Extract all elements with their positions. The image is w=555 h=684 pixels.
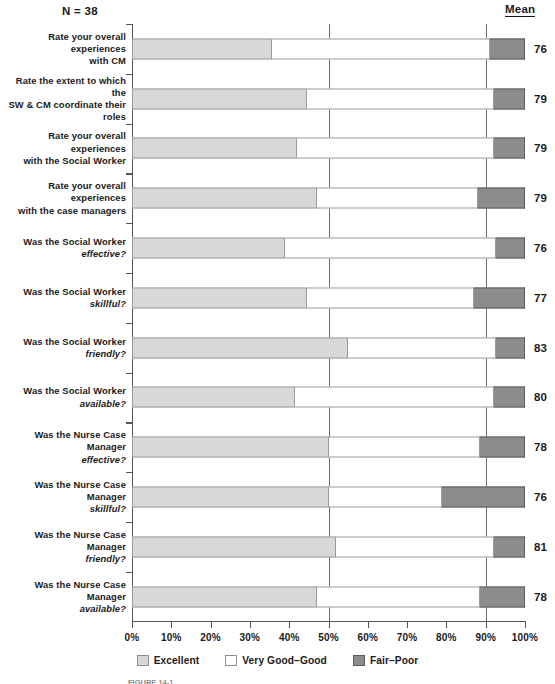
bar-segment-very-good-good bbox=[348, 337, 495, 358]
x-axis-tick-label: 70% bbox=[397, 632, 418, 643]
x-axis-tick bbox=[289, 622, 290, 628]
bar-segment-excellent bbox=[132, 88, 307, 109]
bar-segment-excellent bbox=[132, 586, 317, 607]
x-axis-tick-label: 100% bbox=[512, 632, 538, 643]
mean-value: 83 bbox=[534, 342, 547, 354]
bar-segment-very-good-good bbox=[272, 38, 490, 59]
row-label-line1: Was the Social Worker bbox=[0, 236, 126, 248]
mean-value: 76 bbox=[534, 242, 547, 254]
row-category-label: Was the Social Workerfriendly? bbox=[0, 335, 126, 359]
x-axis-tick bbox=[171, 622, 172, 628]
x-axis-tick-label: 20% bbox=[200, 632, 221, 643]
satisfaction-stacked-bar-chart: N = 38 Mean Rate your overall experience… bbox=[0, 0, 555, 684]
row-category-label: Was the Nurse Case Managerfriendly? bbox=[0, 529, 126, 566]
row-label-line2: available? bbox=[0, 603, 126, 615]
chart-row: Was the Social Workereffective?76 bbox=[0, 223, 555, 273]
mean-value: 78 bbox=[534, 591, 547, 603]
y-axis-tick bbox=[126, 323, 132, 324]
row-label-line2: skillful? bbox=[0, 503, 126, 515]
row-label-line2: effective? bbox=[0, 453, 126, 465]
stacked-bar bbox=[132, 387, 525, 408]
legend-label: Fair–Poor bbox=[370, 655, 418, 666]
very-good-good-swatch bbox=[225, 655, 237, 666]
y-axis-tick bbox=[126, 74, 132, 75]
x-axis-tick bbox=[211, 622, 212, 628]
x-axis-tick bbox=[486, 622, 487, 628]
mean-value: 77 bbox=[534, 292, 547, 304]
bar-segment-very-good-good bbox=[317, 188, 478, 209]
bar-segment-excellent bbox=[132, 138, 297, 159]
row-label-line1: Was the Social Worker bbox=[0, 335, 126, 347]
excellent-swatch bbox=[137, 655, 149, 666]
legend-item[interactable]: Excellent bbox=[137, 655, 200, 666]
row-label-line1: Rate your overall experiences bbox=[0, 31, 126, 55]
bar-segment-excellent bbox=[132, 337, 348, 358]
x-axis-tick-label: 80% bbox=[436, 632, 457, 643]
row-label-line1: Was the Nurse Case Manager bbox=[0, 578, 126, 602]
y-axis-tick bbox=[126, 273, 132, 274]
row-label-line1: Rate your overall experiences bbox=[0, 130, 126, 154]
bar-segment-fair-poor bbox=[494, 536, 525, 557]
row-label-line1: Was the Social Worker bbox=[0, 286, 126, 298]
bar-segment-fair-poor bbox=[480, 437, 525, 458]
mean-value: 79 bbox=[534, 192, 547, 204]
row-category-label: Was the Nurse Case Managereffective? bbox=[0, 429, 126, 466]
row-label-line1: Rate the extent to which the bbox=[0, 74, 126, 98]
row-category-label: Was the Nurse Case Managerskillful? bbox=[0, 479, 126, 516]
bar-segment-fair-poor bbox=[474, 287, 525, 308]
row-label-line1: Was the Nurse Case Manager bbox=[0, 479, 126, 503]
bar-segment-excellent bbox=[132, 188, 317, 209]
mean-value: 78 bbox=[534, 441, 547, 453]
row-label-line2: skillful? bbox=[0, 298, 126, 310]
chart-row: Was the Social Workerfriendly?83 bbox=[0, 323, 555, 373]
bar-segment-excellent bbox=[132, 437, 329, 458]
row-category-label: Rate your overall experienceswith CM bbox=[0, 31, 126, 68]
legend-item[interactable]: Very Good–Good bbox=[225, 655, 327, 666]
x-axis-tick-label: 60% bbox=[357, 632, 378, 643]
x-axis-tick bbox=[250, 622, 251, 628]
bar-segment-very-good-good bbox=[295, 387, 493, 408]
bar-segment-very-good-good bbox=[297, 138, 494, 159]
stacked-bar bbox=[132, 536, 525, 557]
y-axis-tick bbox=[126, 422, 132, 423]
row-label-line2: available? bbox=[0, 397, 126, 409]
legend-item[interactable]: Fair–Poor bbox=[353, 655, 418, 666]
row-category-label: Was the Social Workereffective? bbox=[0, 236, 126, 260]
bar-segment-fair-poor bbox=[478, 188, 525, 209]
row-label-line1: Was the Nurse Case Manager bbox=[0, 429, 126, 453]
row-label-line2: friendly? bbox=[0, 553, 126, 565]
stacked-bar bbox=[132, 238, 525, 259]
mean-value: 79 bbox=[534, 142, 547, 154]
y-axis-tick bbox=[126, 572, 132, 573]
row-category-label: Rate the extent to which theSW & CM coor… bbox=[0, 74, 126, 123]
mean-value: 76 bbox=[534, 43, 547, 55]
bar-segment-fair-poor bbox=[490, 38, 525, 59]
row-label-line2: with the Social Worker bbox=[0, 155, 126, 167]
y-axis-tick bbox=[126, 373, 132, 374]
x-axis-tick-label: 40% bbox=[279, 632, 300, 643]
y-axis-tick bbox=[126, 223, 132, 224]
stacked-bar bbox=[132, 138, 525, 159]
mean-value: 80 bbox=[534, 391, 547, 403]
y-axis-tick bbox=[126, 24, 132, 25]
chart-row: Was the Nurse Case Managerskillful?76 bbox=[0, 472, 555, 522]
stacked-bar bbox=[132, 88, 525, 109]
bar-segment-very-good-good bbox=[307, 88, 494, 109]
chart-row: Was the Nurse Case Managereffective?78 bbox=[0, 422, 555, 472]
row-label-line1: Rate your overall experiences bbox=[0, 180, 126, 204]
chart-legend: ExcellentVery Good–GoodFair–Poor bbox=[0, 655, 555, 666]
bar-segment-fair-poor bbox=[496, 337, 525, 358]
x-axis-tick bbox=[368, 622, 369, 628]
mean-value: 81 bbox=[534, 541, 547, 553]
fair-poor-swatch bbox=[353, 655, 365, 666]
sample-size-label: N = 38 bbox=[62, 5, 98, 17]
chart-row: Rate your overall experienceswith the So… bbox=[0, 124, 555, 174]
row-category-label: Rate your overall experienceswith the So… bbox=[0, 130, 126, 167]
row-label-line2: with CM bbox=[0, 55, 126, 67]
chart-row: Rate your overall experienceswith the ca… bbox=[0, 173, 555, 223]
bar-segment-fair-poor bbox=[494, 387, 525, 408]
mean-value: 76 bbox=[534, 491, 547, 503]
y-axis-tick bbox=[126, 124, 132, 125]
stacked-bar bbox=[132, 337, 525, 358]
y-axis-tick bbox=[126, 173, 132, 174]
